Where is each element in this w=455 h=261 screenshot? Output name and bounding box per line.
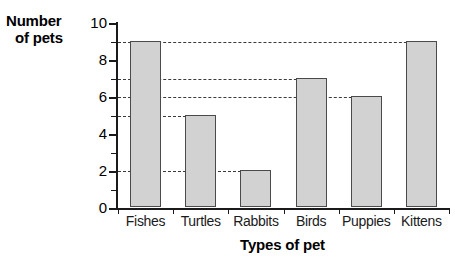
gridline-value-9: [118, 42, 437, 43]
x-axis-title: Types of pet: [116, 236, 449, 253]
y-tick-mark-6: [109, 97, 117, 99]
bar-puppies: [351, 96, 382, 207]
bar-turtles: [185, 115, 216, 208]
y-axis-title: Number of pets: [6, 12, 92, 46]
bar-rabbits: [240, 170, 271, 207]
y-tick-mark-2: [109, 171, 117, 173]
y-tick-mark-10: [109, 23, 117, 25]
y-tick-label-6: 6: [99, 88, 107, 105]
y-tick-mark-8: [109, 60, 117, 62]
y-tick-label-0: 0: [99, 199, 107, 216]
y-tick-mark-0: [109, 208, 117, 210]
x-axis-label-birds: Birds: [284, 213, 339, 229]
x-axis-label-puppies: Puppies: [339, 213, 394, 229]
y-tick-minor-5: [111, 116, 117, 117]
bar-fishes: [130, 41, 161, 208]
y-tick-label-4: 4: [99, 125, 107, 142]
y-tick-label-10: 10: [90, 14, 107, 31]
y-tick-mark-4: [109, 134, 117, 136]
y-tick-minor-1: [111, 190, 117, 191]
bar-birds: [296, 78, 327, 208]
y-tick-minor-9: [111, 42, 117, 43]
x-tick-6: [449, 208, 450, 214]
x-axis-label-kittens: Kittens: [394, 213, 449, 229]
x-axis-line: [116, 208, 449, 210]
y-tick-minor-7: [111, 79, 117, 80]
y-tick-label-8: 8: [99, 51, 107, 68]
bar-chart: Number of pets 0246810 FishesTurtlesRabb…: [0, 0, 455, 261]
x-axis-label-turtles: Turtles: [173, 213, 228, 229]
bar-kittens: [406, 41, 437, 208]
x-axis-label-rabbits: Rabbits: [228, 213, 283, 229]
x-axis-label-fishes: Fishes: [118, 213, 173, 229]
y-tick-label-2: 2: [99, 162, 107, 179]
y-axis-title-line-2: of pets: [6, 29, 92, 46]
y-tick-minor-3: [111, 153, 117, 154]
plot-area: 0246810 FishesTurtlesRabbitsBirdsPuppies…: [116, 22, 449, 209]
y-axis-title-line-1: Number: [6, 12, 61, 29]
